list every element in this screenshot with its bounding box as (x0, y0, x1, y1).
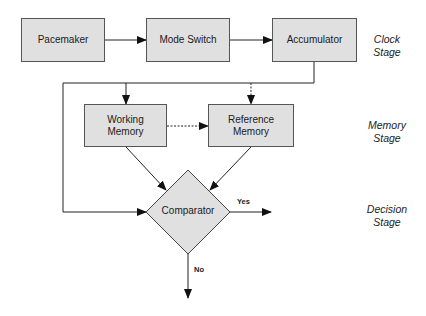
memory-stage-line2: Stage (352, 132, 422, 145)
memory-stage-line1: Memory (352, 119, 422, 132)
clock-stage-label: Clock Stage (352, 33, 422, 59)
working-memory-box: Working Memory (84, 104, 167, 147)
comparator-label: Comparator (148, 205, 228, 216)
no-label: No (194, 265, 204, 274)
arrow-reference-to-comparator (210, 147, 251, 190)
working-memory-label-line1: Working (107, 114, 144, 126)
pacemaker-label: Pacemaker (38, 34, 89, 46)
decision-stage-line1: Decision (352, 203, 422, 216)
decision-stage-line2: Stage (352, 216, 422, 229)
decision-stage-label: Decision Stage (352, 203, 422, 229)
reference-memory-box: Reference Memory (208, 104, 294, 147)
yes-label: Yes (237, 197, 250, 206)
reference-memory-label-line2: Memory (233, 126, 269, 138)
diagram: Pacemaker Mode Switch Accumulator Workin… (0, 0, 426, 316)
working-memory-label-line2: Memory (107, 126, 143, 138)
reference-memory-label-line1: Reference (228, 114, 274, 126)
pacemaker-box: Pacemaker (21, 18, 105, 62)
accumulator-box: Accumulator (272, 18, 357, 62)
mode-switch-label: Mode Switch (159, 34, 216, 46)
clock-stage-line1: Clock (352, 33, 422, 46)
accumulator-label: Accumulator (287, 34, 343, 46)
arrow-working-to-comparator (126, 147, 166, 190)
mode-switch-box: Mode Switch (146, 18, 230, 62)
clock-stage-line2: Stage (352, 46, 422, 59)
memory-stage-label: Memory Stage (352, 119, 422, 145)
